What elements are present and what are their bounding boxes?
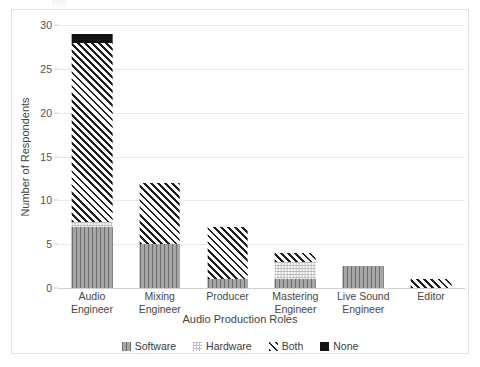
y-tick-label: 25 xyxy=(40,64,52,75)
y-tick-label: 5 xyxy=(46,239,52,250)
x-axis-title: Audio Production Roles xyxy=(12,313,468,325)
x-tick-label-line: Producer xyxy=(194,290,262,303)
x-tick-label: Editor xyxy=(397,290,465,303)
bar-slot xyxy=(329,25,397,288)
legend-label: Hardware xyxy=(206,341,252,352)
bar-segment-both[interactable] xyxy=(275,253,316,262)
bar-segment-hardware[interactable] xyxy=(275,262,316,280)
stacked-bar[interactable] xyxy=(139,183,180,288)
bar-segment-software[interactable] xyxy=(207,279,248,288)
bar-segment-both[interactable] xyxy=(207,227,248,280)
legend-swatch-software-icon xyxy=(122,342,131,351)
y-tick-label: 30 xyxy=(40,20,52,31)
legend-label: Software xyxy=(135,341,176,352)
legend-label: Both xyxy=(282,341,304,352)
y-tick-label: 20 xyxy=(40,107,52,118)
x-tick-label-line: Editor xyxy=(397,290,465,303)
legend-item-hardware[interactable]: Hardware xyxy=(193,341,252,352)
bar-slot xyxy=(194,25,262,288)
plot-area: 051015202530 xyxy=(58,25,465,288)
x-tick-label: Producer xyxy=(194,290,262,303)
stacked-bar[interactable] xyxy=(411,279,452,288)
stacked-bar[interactable] xyxy=(343,266,384,288)
bar-slot xyxy=(126,25,194,288)
y-axis-title: Number of Respondents xyxy=(19,97,31,216)
x-tick-label-line: Mixing xyxy=(126,290,194,303)
bar-slot xyxy=(58,25,126,288)
x-tick-label-line: Mastering xyxy=(262,290,330,303)
bar-segment-both[interactable] xyxy=(411,279,452,288)
gridline xyxy=(58,288,465,289)
stacked-bar[interactable] xyxy=(207,227,248,288)
y-tick-label: 10 xyxy=(40,195,52,206)
clipped-glyph-artifact xyxy=(52,0,66,8)
chart-legend: SoftwareHardwareBothNone xyxy=(12,341,468,352)
bar-slot xyxy=(397,25,465,288)
stacked-bar[interactable] xyxy=(72,34,113,288)
bar-segment-software[interactable] xyxy=(72,227,113,288)
legend-item-both[interactable]: Both xyxy=(269,341,304,352)
legend-label: None xyxy=(333,341,358,352)
bar-segment-software[interactable] xyxy=(343,266,384,288)
x-tick-label-line: Live Sound xyxy=(329,290,397,303)
bar-slot xyxy=(262,25,330,288)
bar-segment-none[interactable] xyxy=(72,34,113,43)
bar-segment-software[interactable] xyxy=(275,279,316,288)
legend-swatch-hardware-icon xyxy=(193,342,202,351)
legend-swatch-none-icon xyxy=(320,342,329,351)
y-tick-label: 0 xyxy=(46,283,52,294)
bar-segment-both[interactable] xyxy=(139,183,180,244)
legend-swatch-both-icon xyxy=(269,342,278,351)
y-tick-label: 15 xyxy=(40,151,52,162)
chart-container: Number of Respondents 051015202530 Audio… xyxy=(11,9,469,354)
bar-segment-software[interactable] xyxy=(139,244,180,288)
stacked-bar[interactable] xyxy=(275,253,316,288)
legend-item-none[interactable]: None xyxy=(320,341,358,352)
bar-segment-both[interactable] xyxy=(72,43,113,223)
legend-item-software[interactable]: Software xyxy=(122,341,176,352)
